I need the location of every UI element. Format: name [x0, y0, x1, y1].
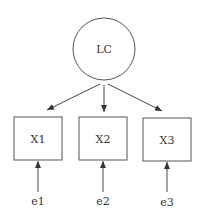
- error-label-e2: e2: [96, 195, 110, 208]
- error-label-e3: e3: [160, 196, 174, 209]
- latent-label: LC: [96, 43, 112, 56]
- indicator-node-x3: X3: [143, 118, 191, 161]
- indicator-label: X2: [96, 133, 111, 146]
- path-diagram: LC X1 X2 X3 e1 e2 e3: [0, 0, 204, 219]
- indicator-label: X1: [31, 133, 46, 146]
- edge-lc-x3: [108, 84, 162, 111]
- error-label-e1: e1: [31, 195, 45, 208]
- edge-lc-x1: [47, 84, 100, 110]
- indicator-node-x1: X1: [14, 117, 62, 160]
- indicator-node-x2: X2: [79, 117, 127, 160]
- indicator-label: X3: [160, 134, 175, 147]
- latent-node-lc: LC: [73, 18, 135, 80]
